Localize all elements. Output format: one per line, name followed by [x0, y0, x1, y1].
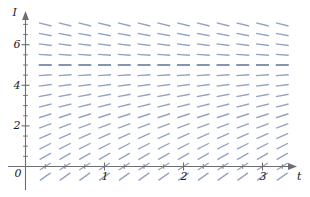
y-tick-label-2: 2 — [14, 120, 21, 131]
x-axis-label: t — [297, 171, 301, 182]
x-tick-label-2: 2 — [181, 171, 188, 182]
y-tick-label-0: 0 — [15, 168, 22, 179]
slope-marks-group — [39, 23, 289, 181]
x-tick-label-1: 1 — [102, 171, 109, 182]
slope-field-canvas — [0, 0, 310, 197]
x-tick-label-3: 3 — [260, 171, 267, 182]
y-axis-label: I — [13, 7, 17, 18]
y-tick-label-6: 6 — [14, 39, 21, 50]
slope-field-figure: I t 0 2 4 6 1 2 3 — [0, 0, 310, 197]
axes-group — [8, 11, 297, 190]
y-tick-label-4: 4 — [14, 80, 21, 91]
